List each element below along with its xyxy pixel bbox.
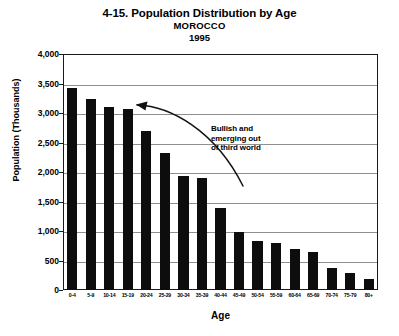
chart-annotation: Bullish and emerging out of third world <box>211 124 261 153</box>
chart-subtitle-country: MOROCCO <box>0 20 399 32</box>
chart-subtitle-year: 1995 <box>0 32 399 44</box>
bar <box>234 232 244 290</box>
y-axis-tick-label: 0 <box>3 286 59 295</box>
x-axis-tick-label: 40-44 <box>211 292 230 299</box>
x-axis: 0-45-910-1415-1920-2425-2930-3435-3940-4… <box>63 292 378 304</box>
bar <box>141 131 151 290</box>
annotation-line-2: emerging out <box>211 134 261 144</box>
y-axis-tick-label: 500 <box>3 256 59 265</box>
bar <box>197 178 207 290</box>
x-axis-tick-label: 35-39 <box>193 292 212 299</box>
bar <box>104 107 114 290</box>
x-axis-tick-label: 45-49 <box>230 292 249 299</box>
x-axis-tick-label: 75-79 <box>341 292 360 299</box>
x-axis-tick-label: 5-9 <box>82 292 101 299</box>
x-axis-tick-label: 15-19 <box>119 292 138 299</box>
y-axis: 4,0003,5003,0002,5002,0001,5001,0005000 <box>0 54 59 290</box>
x-axis-tick-label: 65-69 <box>304 292 323 299</box>
x-axis-tick-label: 10-14 <box>100 292 119 299</box>
x-axis-tick-label: 30-34 <box>174 292 193 299</box>
annotation-line-1: Bullish and <box>211 124 261 134</box>
bar <box>160 153 170 290</box>
y-axis-title: Population (Thousands) <box>11 30 21 230</box>
bar <box>123 109 133 290</box>
x-axis-tick-label: 25-29 <box>156 292 175 299</box>
chart-title: 4-15. Population Distribution by Age <box>0 6 399 20</box>
x-axis-tick-label: 20-24 <box>137 292 156 299</box>
bar <box>308 252 318 290</box>
x-axis-tick-label: 55-59 <box>267 292 286 299</box>
bar <box>86 99 96 290</box>
y-axis-tick <box>59 290 63 291</box>
x-axis-tick-label: 50-54 <box>248 292 267 299</box>
population-distribution-chart: 4-15. Population Distribution by Age MOR… <box>0 0 399 336</box>
x-axis-tick-label: 70-74 <box>322 292 341 299</box>
bar <box>67 88 77 290</box>
bar <box>252 241 262 290</box>
x-axis-tick-label: 0-4 <box>63 292 82 299</box>
chart-title-block: 4-15. Population Distribution by Age MOR… <box>0 6 399 44</box>
x-axis-title: Age <box>63 310 378 321</box>
bar <box>364 279 374 290</box>
bar <box>178 176 188 290</box>
bar <box>271 243 281 290</box>
bar <box>215 208 225 290</box>
bar <box>345 273 355 290</box>
x-axis-tick-label: 60-64 <box>285 292 304 299</box>
x-axis-tick-label: 80+ <box>359 292 378 299</box>
bar-series <box>63 54 378 290</box>
bar <box>327 268 337 290</box>
bar <box>290 249 300 290</box>
annotation-line-3: of third world <box>211 143 261 153</box>
